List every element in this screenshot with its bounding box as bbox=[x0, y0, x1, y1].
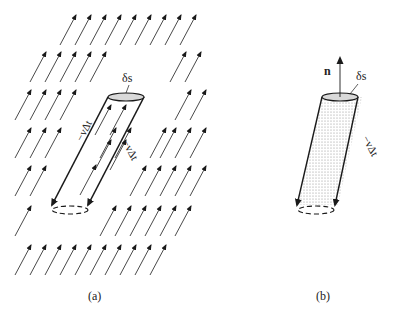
surface-label-b: δs bbox=[356, 69, 367, 83]
flow-arrow bbox=[30, 166, 46, 196]
flow-arrow bbox=[45, 128, 61, 158]
flow-arrow bbox=[15, 206, 31, 236]
flow-arrow bbox=[45, 52, 61, 82]
flow-arrow bbox=[15, 245, 31, 275]
flow-arrow bbox=[160, 166, 176, 196]
flow-arrow bbox=[30, 52, 46, 82]
flow-arrow bbox=[15, 90, 31, 120]
surface-label-a: δs bbox=[122, 71, 133, 85]
dashed-base-b bbox=[298, 206, 334, 214]
flow-arrow bbox=[100, 128, 116, 158]
flow-arrow bbox=[105, 245, 121, 275]
caption-a: (a) bbox=[88, 289, 101, 303]
flow-arrow bbox=[145, 166, 161, 196]
flow-arrow bbox=[135, 15, 151, 45]
flow-arrow bbox=[190, 166, 206, 196]
flow-arrow bbox=[185, 52, 201, 82]
flow-arrow bbox=[60, 15, 76, 45]
flow-arrow bbox=[190, 128, 206, 158]
flow-arrow bbox=[90, 245, 106, 275]
flow-arrow bbox=[90, 52, 106, 82]
flow-arrow bbox=[150, 15, 166, 45]
flow-arrow bbox=[160, 206, 176, 236]
flow-arrow bbox=[110, 105, 126, 135]
flow-arrow bbox=[175, 90, 191, 120]
normal-label-b: n bbox=[324, 64, 331, 78]
flow-arrow bbox=[75, 52, 91, 82]
flow-arrow bbox=[45, 90, 61, 120]
flow-field-arrows bbox=[15, 15, 206, 275]
flow-arrow bbox=[105, 15, 121, 45]
flow-arrow bbox=[160, 128, 176, 158]
flow-arrow bbox=[30, 90, 46, 120]
flow-arrow bbox=[75, 15, 91, 45]
flow-arrow bbox=[150, 128, 166, 158]
flow-arrow bbox=[120, 15, 136, 45]
flow-arrow bbox=[170, 52, 186, 82]
diagram: δs −vΔt −vΔt (a) δs n −vΔt (b) bbox=[0, 0, 420, 315]
flow-arrow bbox=[60, 90, 76, 120]
flow-arrow bbox=[100, 206, 116, 236]
flow-arrow bbox=[135, 245, 151, 275]
flow-arrow bbox=[175, 206, 191, 236]
flow-arrow bbox=[180, 15, 196, 45]
flow-arrow bbox=[165, 15, 181, 45]
flow-arrow bbox=[80, 165, 96, 195]
flow-arrow bbox=[120, 245, 136, 275]
side-label-right-b: −vΔt bbox=[360, 133, 381, 158]
flow-arrow bbox=[145, 206, 161, 236]
flow-arrow bbox=[30, 245, 46, 275]
flow-arrow bbox=[190, 90, 206, 120]
flow-arrow bbox=[95, 105, 111, 135]
flow-arrow bbox=[15, 128, 31, 158]
flow-arrow bbox=[150, 245, 166, 275]
flow-arrow bbox=[15, 166, 31, 196]
flow-arrow bbox=[60, 245, 76, 275]
flow-arrow bbox=[130, 166, 146, 196]
dashed-base-a bbox=[52, 206, 88, 214]
flow-arrow bbox=[130, 206, 146, 236]
flow-arrow bbox=[175, 166, 191, 196]
flow-arrow bbox=[175, 128, 191, 158]
tube-b bbox=[297, 58, 362, 214]
flow-arrow bbox=[30, 128, 46, 158]
flow-arrow bbox=[75, 245, 91, 275]
surface-cap-a bbox=[108, 93, 144, 101]
flow-arrow bbox=[115, 206, 131, 236]
flow-arrow bbox=[60, 52, 76, 82]
caption-b: (b) bbox=[316, 289, 330, 303]
flow-arrow bbox=[45, 245, 61, 275]
side-label-right-a: −vΔt bbox=[120, 137, 141, 162]
flow-arrow bbox=[90, 15, 106, 45]
